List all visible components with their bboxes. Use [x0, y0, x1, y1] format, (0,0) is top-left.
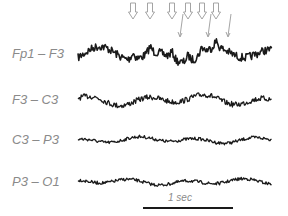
event-arrows: [129, 3, 232, 37]
waveform-2: [78, 93, 272, 108]
hollow-arrow-icon: [212, 3, 221, 19]
waveform-1: [78, 39, 272, 65]
waveform-3: [78, 135, 272, 145]
channel-label-f3-c3: F3 – C3: [12, 92, 58, 107]
channel-label-p3-o1: P3 – O1: [12, 174, 60, 189]
hollow-arrow-icon: [129, 3, 138, 19]
thin-arrow-icon: [226, 14, 231, 37]
hollow-arrow-icon: [168, 3, 177, 19]
hollow-arrow-icon: [198, 3, 207, 19]
thin-arrow-icon: [206, 14, 211, 37]
channel-label-c3-p3: C3 – P3: [12, 132, 59, 147]
hollow-arrow-icon: [146, 3, 155, 19]
channel-label-fp1-f3: Fp1 – F3: [12, 46, 64, 61]
waveform-4: [78, 177, 272, 186]
scale-bar-label: 1 sec: [168, 192, 192, 203]
hollow-arrow-icon: [184, 3, 193, 19]
thin-arrow-icon: [178, 14, 183, 37]
eeg-traces: [78, 39, 272, 187]
